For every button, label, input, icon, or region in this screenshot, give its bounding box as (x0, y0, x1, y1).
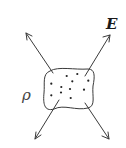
charge-dots (50, 73, 89, 99)
charge-density-label: ρ (22, 88, 31, 103)
arrow-up-right-icon (85, 35, 110, 76)
arrow-down-right-icon (85, 103, 109, 139)
arrow-up-left-icon (26, 33, 53, 73)
gauss-law-diagram: E ρ (0, 0, 126, 148)
electric-field-label: E (106, 17, 117, 32)
arrow-down-left-icon (35, 100, 59, 139)
